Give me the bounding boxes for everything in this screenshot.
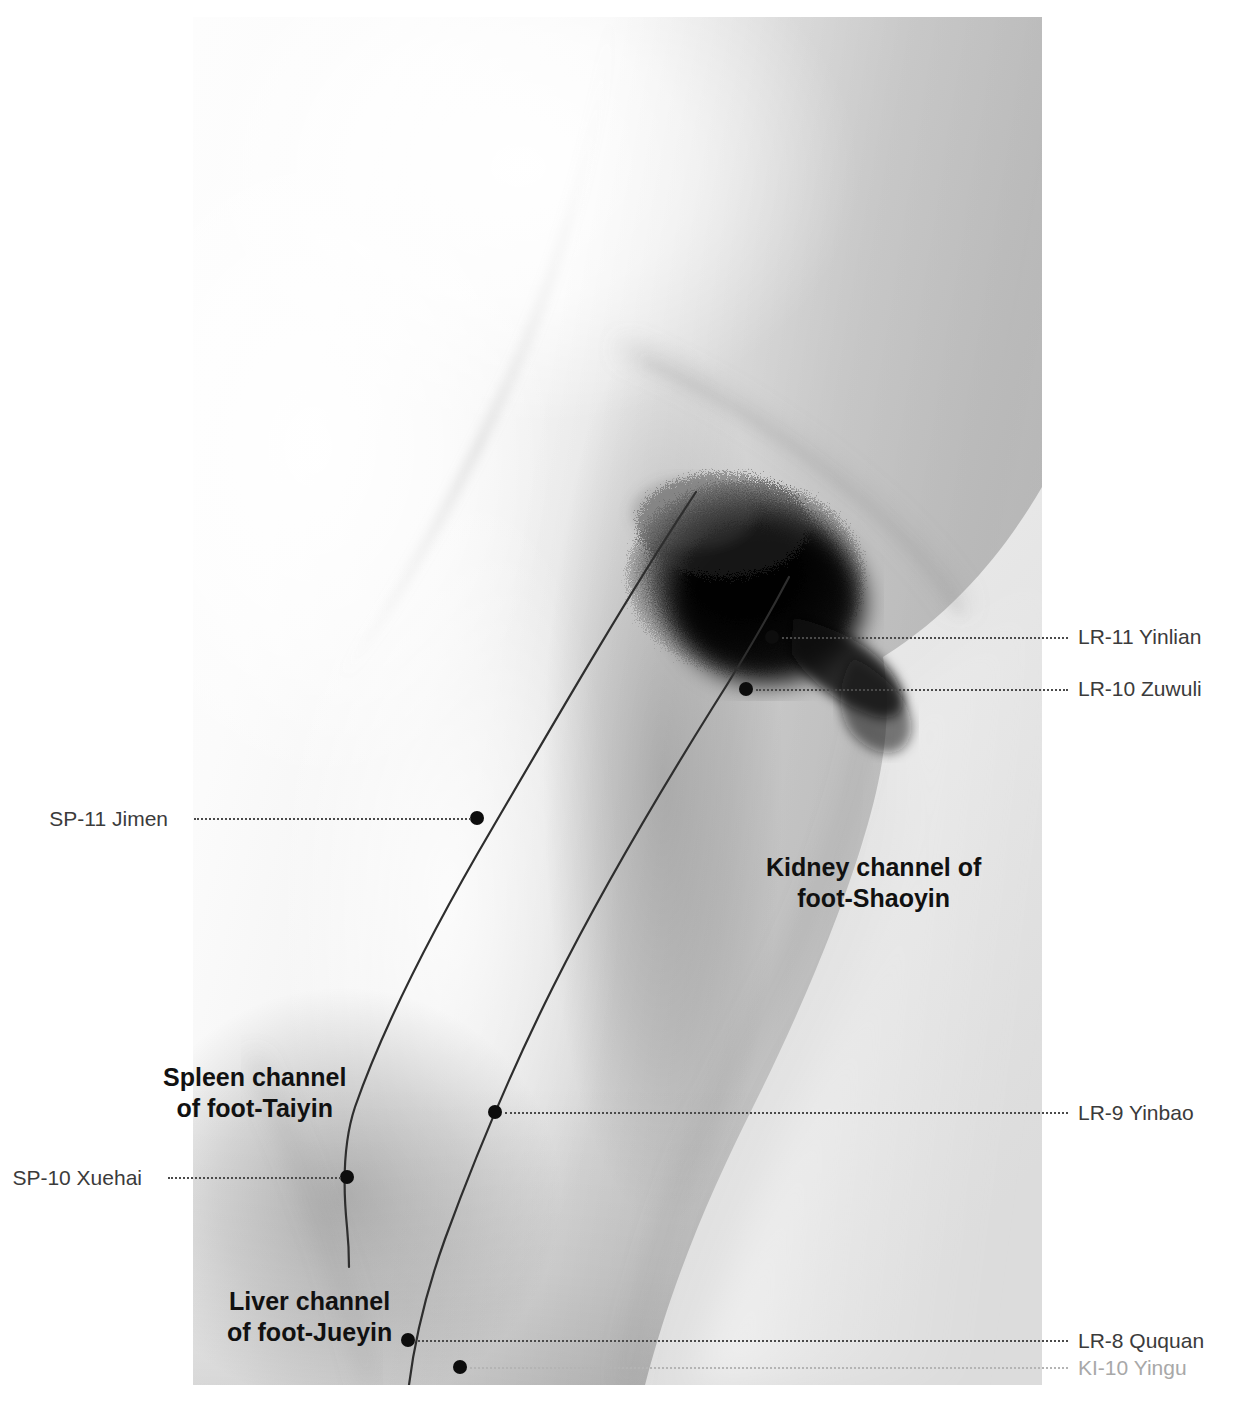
channel-name-liver-line1: Liver channel (227, 1286, 392, 1317)
channel-name-spleen: Spleen channelof foot-Taiyin (163, 1062, 346, 1123)
leader-line-sp10 (168, 1177, 341, 1179)
leader-line-sp11 (194, 818, 471, 820)
acupoint-label-ki10: KI-10 Yingu (1078, 1355, 1187, 1380)
anatomical-photograph (193, 17, 1042, 1385)
photo-overlay (193, 17, 1042, 1385)
channel-name-spleen-line2: of foot-Taiyin (163, 1093, 346, 1124)
leader-line-lr8 (418, 1340, 1068, 1342)
channel-name-spleen-line1: Spleen channel (163, 1062, 346, 1093)
acupoint-label-sp11: SP-11 Jimen (49, 806, 168, 831)
lateral-body-contour (343, 17, 611, 677)
leader-line-lr10 (756, 689, 1068, 691)
channel-name-kidney-line1: Kidney channel of (766, 852, 981, 883)
leader-line-lr9 (505, 1112, 1068, 1114)
leader-line-ki10 (470, 1367, 1068, 1369)
anatomy-plate: LR-11 YinlianLR-10 ZuwuliSP-11 JimenLR-9… (0, 0, 1235, 1414)
channel-name-liver: Liver channelof foot-Jueyin (227, 1286, 392, 1347)
acupoint-marker-lr10[interactable] (739, 682, 753, 696)
acupoint-marker-lr11[interactable] (765, 630, 779, 644)
acupoint-marker-lr8[interactable] (401, 1333, 415, 1347)
channel-name-kidney-line2: foot-Shaoyin (766, 883, 981, 914)
acupoint-label-lr10: LR-10 Zuwuli (1078, 676, 1202, 701)
channel-name-liver-line2: of foot-Jueyin (227, 1317, 392, 1348)
leader-line-lr11 (782, 637, 1068, 639)
channel-name-kidney: Kidney channel offoot-Shaoyin (766, 852, 981, 913)
acupoint-label-sp10: SP-10 Xuehai (12, 1165, 142, 1190)
acupoint-label-lr8: LR-8 Ququan (1078, 1328, 1204, 1353)
acupoint-marker-sp10[interactable] (340, 1170, 354, 1184)
acupoint-marker-lr9[interactable] (488, 1105, 502, 1119)
acupoint-label-lr11: LR-11 Yinlian (1078, 624, 1201, 649)
acupoint-label-lr9: LR-9 Yinbao (1078, 1100, 1194, 1125)
acupoint-marker-sp11[interactable] (470, 811, 484, 825)
acupoint-marker-ki10[interactable] (453, 1360, 467, 1374)
